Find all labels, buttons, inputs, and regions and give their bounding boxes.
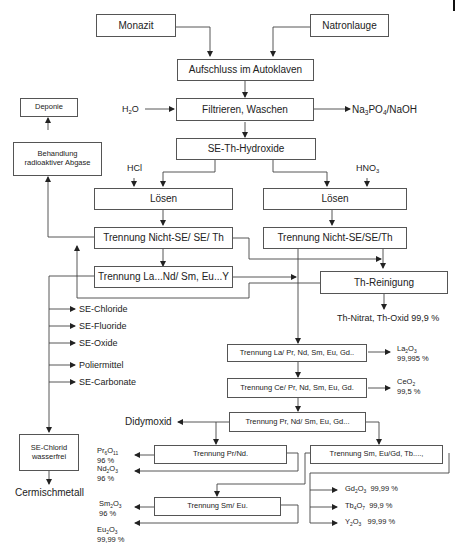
se-chlorid-box: SE-Chlorid wasserfrei [19, 434, 79, 471]
se-chlorid-label-2: wasserfrei [32, 453, 66, 462]
se-product-fluoride: SE-Fluoride [79, 321, 127, 331]
se-product-oxide: SE-Oxide [79, 338, 118, 348]
loesen-left-label: Lösen [150, 193, 177, 205]
trennung-pr-nd-box: Trennung Pr/Nd. [154, 445, 287, 464]
aufschluss-box: Aufschluss im Autoklaven [177, 59, 314, 81]
trennung-nicht-se-left-box: Trennung Nicht-SE/ SE/ Th [94, 227, 233, 249]
th-reinigung-box: Th-Reinigung [320, 271, 448, 294]
se-product-poliermittel: Poliermittel [79, 360, 124, 370]
hydroxide-box: SE-Th-Hydroxide [176, 138, 316, 160]
filtrieren-box: Filtrieren, Waschen [176, 98, 314, 121]
nd2o3-label: Nd2O396 % [97, 465, 118, 483]
trennung-pr-nd-label: Trennung Pr/Nd. [193, 450, 248, 459]
trennung-nicht-se-right-label: Trennung Nicht-SE/SE/Th [277, 232, 392, 244]
trennung-la-pr-box: Trennung La/ Pr, Nd, Sm, Eu, Gd.. [227, 344, 367, 362]
loesen-right-label: Lösen [321, 193, 348, 205]
didymoxid-label: Didymoxid [125, 416, 172, 428]
filtrieren-label: Filtrieren, Waschen [202, 104, 288, 116]
la2o3-label: La2O399,995 % [397, 345, 429, 363]
loesen-right-box: Lösen [263, 188, 407, 210]
se-product-chloride: SE-Chloride [79, 304, 128, 314]
trennung-sm-eu-gd-box: Trennung Sm, Eu/Gd, Tb...., [310, 445, 443, 464]
trennung-nicht-se-right-box: Trennung Nicht-SE/SE/Th [263, 227, 407, 249]
na3po4-naoh-label: Na3PO4/NaOH [352, 104, 417, 116]
cermischmetall-label: Cermischmetall [15, 487, 84, 499]
deponie-box: Deponie [20, 98, 78, 117]
trennung-la-nd-box: Trennung La...Nd/ Sm, Eu...Y [94, 266, 233, 288]
trennung-ce-pr-label: Trennung Ce/ Pr, Nd, Sm, Eu, Gd. [240, 384, 354, 393]
gd2o3-label: Gd2O3 99,99 % [345, 485, 398, 495]
trennung-la-nd-label: Trennung La...Nd/ Sm, Eu...Y [98, 271, 229, 283]
deponie-label: Deponie [35, 103, 63, 112]
hydroxide-label: SE-Th-Hydroxide [208, 143, 285, 155]
trennung-sm-eu-label: Trennung Sm/ Eu. [187, 502, 248, 511]
loesen-left-box: Lösen [94, 188, 233, 210]
aufschluss-label: Aufschluss im Autoklaven [189, 64, 302, 76]
natronlauge-label: Natronlauge [322, 20, 376, 32]
pr6o11-label: Pr6O1196 % [97, 447, 118, 465]
h2o-label: H2O [122, 104, 139, 116]
trennung-ce-pr-box: Trennung Ce/ Pr, Nd, Sm, Eu, Gd. [227, 378, 367, 398]
se-product-carbonate: SE-Carbonate [79, 377, 136, 387]
trennung-pr-nd-sm-label: Trennung Pr, Nd/ Sm, Eu, Gd... [246, 418, 350, 427]
behandlung-box: Behandlung radioaktiver Abgase [13, 142, 102, 176]
trennung-pr-nd-sm-box: Trennung Pr, Nd/ Sm, Eu, Gd... [229, 412, 366, 432]
natronlauge-box: Natronlauge [310, 14, 389, 37]
sm2o3-label: Sm2O396 % [99, 500, 122, 518]
trennung-la-pr-label: Trennung La/ Pr, Nd, Sm, Eu, Gd.. [240, 349, 354, 358]
trennung-sm-eu-gd-label: Trennung Sm, Eu/Gd, Tb...., [330, 450, 424, 459]
monazit-label: Monazit [118, 20, 153, 32]
th-nitrat-label: Th-Nitrat, Th-Oxid 99,9 % [337, 313, 439, 323]
trennung-nicht-se-left-label: Trennung Nicht-SE/ SE/ Th [103, 232, 224, 244]
behandlung-label-2: radioaktiver Abgase [25, 159, 91, 168]
hno3-label: HNO3 [356, 163, 379, 175]
ceo2-label: CeO299,5 % [397, 378, 420, 396]
trennung-sm-eu-box: Trennung Sm/ Eu. [154, 497, 281, 516]
tb4o7-label: Tb4O7 99,9 % [345, 502, 393, 512]
monazit-box: Monazit [96, 14, 176, 37]
hcl-label: HCl [127, 163, 142, 173]
th-reinigung-label: Th-Reinigung [354, 277, 414, 289]
y2o3-label: Y2O3 99,99 % [345, 518, 395, 528]
eu2o3-label: Eu2O399,99 % [97, 526, 125, 544]
